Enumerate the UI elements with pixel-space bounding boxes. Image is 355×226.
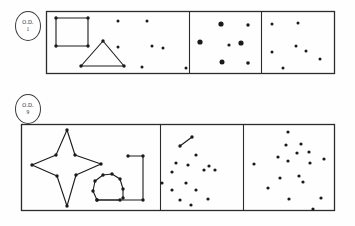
dense-scatter-panel-dot: [284, 143, 287, 146]
four-pointed-star-outline: [32, 130, 101, 206]
square-and-triangle-panel-dot: [162, 47, 165, 50]
dense-scatter-panel-dot: [311, 207, 314, 210]
large-dots-panel-dot: [227, 43, 230, 46]
bracket-outline-vertex-dot: [141, 198, 144, 201]
small-dots-panel: [271, 22, 322, 70]
scatter-with-segment-panel-dot: [207, 164, 210, 167]
figure-root: O.D. 1 O.D. 9: [0, 0, 355, 226]
triangle-outline-vertex-dot: [79, 64, 82, 67]
scatter-with-segment-panel-dot: [213, 168, 216, 171]
four-pointed-star-outline-vertex-dot: [30, 163, 33, 166]
arch-omega-outline-vertex-dot: [93, 179, 96, 182]
square-outline-vertex-dot: [86, 16, 89, 19]
bracket-outline-vertex-dot: [141, 154, 144, 157]
small-dots-panel-dot: [295, 45, 298, 48]
scatter-with-segment-panel-dot: [170, 188, 173, 191]
scatter-with-segment-panel-dot: [178, 198, 181, 201]
square-outline-vertex-dot: [54, 16, 57, 19]
four-pointed-star-outline-vertex-dot: [65, 204, 68, 207]
dense-scatter-panel-dot: [252, 162, 255, 165]
stimulus-canvas: [0, 0, 355, 226]
large-dots-panel-dot: [218, 21, 223, 26]
two-dot-connector-segment: [180, 137, 192, 146]
row-label-2: O.D. 9: [15, 94, 41, 124]
dense-scatter-panel: [252, 130, 325, 210]
row-2-frame: [22, 125, 335, 211]
row-label-1-bottom: 1: [27, 27, 30, 33]
row-1-group: [47, 12, 335, 74]
triangle-outline-vertex-dot: [122, 64, 125, 67]
scatter-with-segment-panel-dot: [202, 168, 205, 171]
two-dot-connector-segment-vertex-dot: [190, 135, 193, 138]
two-dot-connector-segment-vertex-dot: [178, 144, 181, 147]
dense-scatter-panel-dot: [319, 196, 322, 199]
scatter-with-segment-panel-dot: [174, 161, 177, 164]
four-pointed-star-outline-vertex-dot: [99, 162, 102, 165]
small-dots-panel-dot: [271, 23, 274, 26]
small-dots-panel-dot: [319, 58, 322, 61]
dense-scatter-panel-dot: [278, 176, 281, 179]
arch-omega-outline-vertex-dot: [91, 189, 94, 192]
dense-scatter-panel-dot: [301, 180, 304, 183]
arch-omega-outline: [93, 174, 123, 200]
row-label-1: O.D. 1: [15, 11, 41, 41]
bracket-outline-vertex-dot: [95, 198, 98, 201]
dense-scatter-panel-dot: [299, 142, 302, 145]
scatter-with-segment-panel: [160, 135, 216, 206]
four-pointed-star-outline-vertex-dot: [55, 174, 58, 177]
arch-omega-outline-vertex-dot: [101, 173, 104, 176]
large-dots-panel-dot: [238, 40, 243, 45]
large-dots-panel-dot: [246, 23, 249, 26]
arch-omega-outline-vertex-dot: [118, 177, 121, 180]
square-and-triangle-panel-dot: [117, 20, 120, 23]
scatter-with-segment-panel-dot: [184, 181, 187, 184]
square-and-triangle-panel-dot: [146, 20, 149, 23]
row-1-frame: [47, 12, 335, 74]
scatter-with-segment-panel-dot: [206, 197, 209, 200]
large-dots-panel: [197, 21, 249, 64]
arch-omega-outline-vertex-dot: [110, 172, 113, 175]
bracket-outline-vertex-dot: [126, 154, 129, 157]
dense-scatter-panel-dot: [287, 197, 290, 200]
dense-scatter-panel-dot: [266, 186, 269, 189]
row-label-2-bottom: 9: [27, 110, 30, 116]
row-2-group: [22, 125, 335, 211]
four-pointed-star-outline-vertex-dot: [54, 153, 57, 156]
dense-scatter-panel-dot: [307, 150, 310, 153]
square-and-triangle-panel-dot: [151, 45, 154, 48]
scatter-with-segment-panel-dot: [186, 163, 189, 166]
dense-scatter-panel-dot: [286, 130, 289, 133]
square-and-triangle-panel-dot: [117, 46, 120, 49]
large-dots-panel-dot: [197, 39, 202, 44]
arch-omega-outline-vertex-dot: [121, 196, 124, 199]
dense-scatter-panel-dot: [295, 151, 298, 154]
square-outline-vertex-dot: [86, 44, 89, 47]
small-dots-panel-dot: [282, 67, 285, 70]
square-and-triangle-panel-dot: [141, 66, 144, 69]
small-dots-panel-dot: [271, 51, 274, 54]
scatter-with-segment-panel-dot: [194, 153, 197, 156]
arch-omega-outline-vertex-dot: [121, 187, 124, 190]
large-dots-panel-dot: [246, 61, 250, 65]
four-pointed-star-outline-vertex-dot: [65, 128, 68, 131]
row-label-1-top: O.D.: [22, 20, 33, 25]
small-dots-panel-dot: [305, 50, 308, 53]
dense-scatter-panel-dot: [322, 157, 325, 160]
dense-scatter-panel-dot: [286, 159, 289, 162]
square-outline-vertex-dot: [54, 44, 57, 47]
dense-scatter-panel-dot: [308, 161, 311, 164]
square-and-triangle-panel: [54, 16, 187, 69]
square-and-triangle-panel-dot: [185, 67, 188, 70]
square-outline: [56, 18, 88, 46]
four-pointed-star-outline-vertex-dot: [74, 173, 77, 176]
scatter-with-segment-panel-dot: [189, 203, 192, 206]
star-arch-bracket-panel: [30, 128, 144, 207]
four-pointed-star-outline-vertex-dot: [73, 153, 76, 156]
scatter-with-segment-panel-dot: [160, 181, 163, 184]
row-label-2-top: O.D.: [22, 103, 33, 108]
scatter-with-segment-panel-dot: [194, 188, 197, 191]
dense-scatter-panel-dot: [297, 174, 300, 177]
triangle-outline-vertex-dot: [101, 39, 104, 42]
scatter-with-segment-panel-dot: [170, 170, 173, 173]
large-dots-panel-dot: [220, 60, 225, 65]
